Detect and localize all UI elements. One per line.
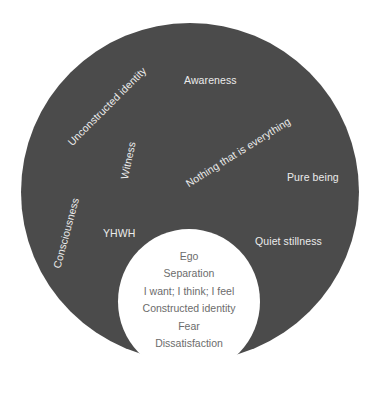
label-pure-being: Pure being — [287, 172, 339, 183]
inner-item-ego: Ego — [118, 248, 260, 265]
diagram-canvas: Awareness Unconstructed identity Witness… — [0, 0, 378, 399]
label-yhwh: YHWH — [103, 228, 135, 239]
label-quiet-stillness: Quiet stillness — [255, 236, 322, 247]
inner-item-dissatisfaction: Dissatisfaction — [118, 335, 260, 352]
inner-item-separation: Separation — [118, 265, 260, 282]
inner-item-fear: Fear — [118, 318, 260, 335]
inner-ego-list: Ego Separation I want; I think; I feel C… — [118, 248, 260, 352]
inner-item-constructed-identity: Constructed identity — [118, 300, 260, 317]
inner-item-i-want-i-think-i-feel: I want; I think; I feel — [118, 283, 260, 300]
label-awareness: Awareness — [184, 75, 237, 86]
